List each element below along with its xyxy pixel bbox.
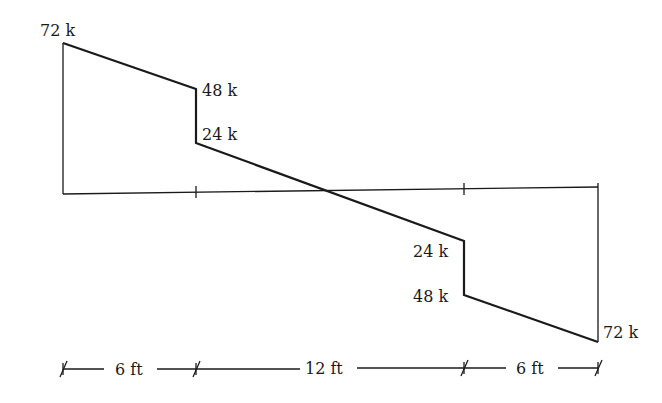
label-left-step-bottom: 24 k bbox=[202, 125, 237, 144]
dim-label-seg1: 6 ft bbox=[115, 360, 143, 379]
label-left-top: 72 k bbox=[40, 21, 75, 40]
dim-label-seg2: 12 ft bbox=[305, 359, 343, 378]
label-right-step-bottom: 48 k bbox=[413, 287, 448, 306]
label-right-step-top: 24 k bbox=[413, 242, 448, 261]
label-left-step-top: 48 k bbox=[202, 81, 237, 100]
dimension-line: 6 ft 12 ft 6 ft bbox=[60, 359, 602, 379]
dim-label-seg3: 6 ft bbox=[516, 359, 544, 378]
label-right-bottom: 72 k bbox=[603, 323, 638, 342]
shear-force-diagram: 72 k 48 k 24 k 24 k 48 k 72 k 6 ft 12 ft… bbox=[0, 0, 662, 403]
